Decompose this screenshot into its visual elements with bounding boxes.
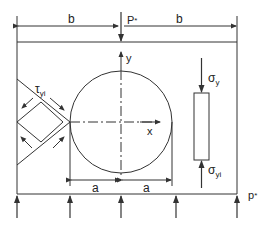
stress-element-rect xyxy=(194,93,209,160)
shear-arrow-upper-right xyxy=(50,98,64,110)
plate-with-circular-hole-diagram: b b P* y x τyi σy σyi a a p* xyxy=(0,0,270,228)
label-distributed-load: p* xyxy=(248,189,257,201)
shear-arrow-lower-left xyxy=(21,137,32,148)
label-sigma-y: σy xyxy=(208,71,219,87)
label-point-load: P* xyxy=(127,14,137,26)
label-y-axis: y xyxy=(126,52,132,64)
label-sigma-yi: σyi xyxy=(208,163,221,179)
label-b-right: b xyxy=(176,12,183,26)
label-a-left: a xyxy=(92,181,99,195)
label-x-axis: x xyxy=(147,125,153,137)
label-b-left: b xyxy=(68,12,75,26)
label-tau-yi: τyi xyxy=(35,82,46,98)
shear-arrow-lower-right xyxy=(53,137,64,148)
shear-arrow-upper-left xyxy=(22,98,33,108)
label-a-right: a xyxy=(143,181,150,195)
shear-element-diamond xyxy=(17,102,63,142)
